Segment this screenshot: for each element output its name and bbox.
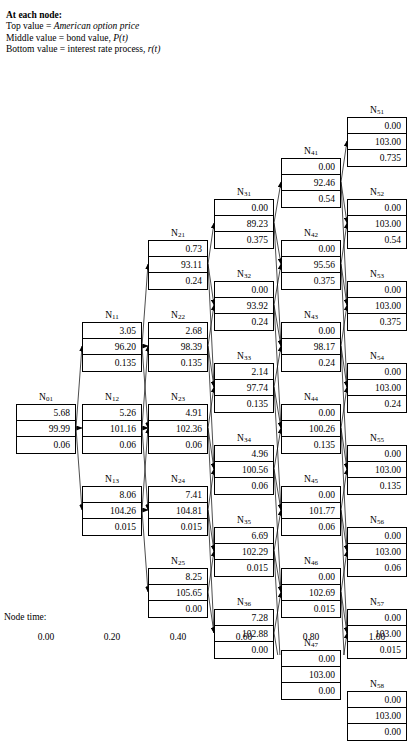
node-label-subscript: 46 xyxy=(311,559,318,567)
legend-title: At each node: xyxy=(6,10,160,21)
bond-value-cell: 103.00 xyxy=(348,134,406,150)
node-label: N24 xyxy=(148,473,208,486)
interest-rate-cell: 0.06 xyxy=(348,560,406,576)
tree-node-n43: N430.0098.170.24 xyxy=(281,309,341,372)
tree-node-n33: N332.1497.740.135 xyxy=(214,350,274,413)
node-label-subscript: 23 xyxy=(178,395,185,403)
node-box: 0.00103.000.735 xyxy=(347,117,407,167)
option-price-cell: 0.00 xyxy=(348,364,406,380)
tree-node-n56: N560.00103.000.06 xyxy=(347,514,407,577)
node-label: N55 xyxy=(347,432,407,445)
node-label-text: N xyxy=(370,679,377,689)
node-label: N43 xyxy=(281,309,341,322)
tree-node-n13: N138.06104.260.015 xyxy=(82,473,142,536)
interest-rate-cell: 0.015 xyxy=(83,519,141,535)
node-label-subscript: 22 xyxy=(178,313,185,321)
legend: At each node: Top value = American optio… xyxy=(6,10,160,56)
node-box: 8.06104.260.015 xyxy=(82,486,142,536)
option-price-cell: 4.96 xyxy=(215,446,273,462)
node-label-subscript: 36 xyxy=(244,600,251,608)
option-price-cell: 3.05 xyxy=(83,323,141,339)
node-label-text: N xyxy=(370,105,377,115)
node-box: 0.00103.000.00 xyxy=(281,650,341,700)
node-label-text: N xyxy=(237,351,244,361)
node-label: N53 xyxy=(347,268,407,281)
node-box: 5.26101.160.06 xyxy=(82,404,142,454)
node-label-subscript: 41 xyxy=(311,149,318,157)
bond-value-cell: 102.36 xyxy=(149,421,207,437)
node-box: 6.69102.290.015 xyxy=(214,527,274,577)
bond-value-cell: 96.20 xyxy=(83,339,141,355)
node-label-text: N xyxy=(237,597,244,607)
tree-node-n21: N210.7393.110.24 xyxy=(148,227,208,290)
interest-rate-cell: 0.00 xyxy=(282,683,340,699)
option-price-cell: 2.14 xyxy=(215,364,273,380)
option-price-cell: 0.00 xyxy=(348,118,406,134)
node-label-subscript: 43 xyxy=(311,313,318,321)
tree-node-n57: N570.00103.000.015 xyxy=(347,596,407,659)
bond-value-cell: 102.69 xyxy=(282,585,340,601)
interest-rate-cell: 0.735 xyxy=(348,150,406,166)
interest-rate-cell: 0.375 xyxy=(282,273,340,289)
node-label-text: N xyxy=(171,310,178,320)
node-label-subscript: 54 xyxy=(377,354,384,362)
node-label-subscript: 21 xyxy=(178,231,185,239)
axis-tick: 0.80 xyxy=(281,632,341,642)
tree-node-n52: N520.00103.000.54 xyxy=(347,186,407,249)
option-price-cell: 5.26 xyxy=(83,405,141,421)
axis-title: Node time: xyxy=(4,612,46,622)
node-label: N57 xyxy=(347,596,407,609)
bond-value-cell: 98.17 xyxy=(282,339,340,355)
bond-value-cell: 103.00 xyxy=(348,380,406,396)
node-label-subscript: 12 xyxy=(112,395,119,403)
bond-value-cell: 104.81 xyxy=(149,503,207,519)
legend-line-middle: Middle value = bond value, P(t) xyxy=(6,33,160,44)
node-box: 0.00101.770.06 xyxy=(281,486,341,536)
option-price-cell: 0.00 xyxy=(282,651,340,667)
node-label: N13 xyxy=(82,473,142,486)
bond-value-cell: 92.46 xyxy=(282,175,340,191)
node-label: N52 xyxy=(347,186,407,199)
option-price-cell: 0.00 xyxy=(348,200,406,216)
option-price-cell: 0.00 xyxy=(215,200,273,216)
node-box: 4.96100.560.06 xyxy=(214,445,274,495)
tree-node-n44: N440.00100.260.135 xyxy=(281,391,341,454)
node-box: 0.00103.000.00 xyxy=(347,691,407,741)
node-box: 0.0098.170.24 xyxy=(281,322,341,372)
node-box: 8.25105.650.00 xyxy=(148,568,208,618)
node-label-text: N xyxy=(370,597,377,607)
tree-node-n31: N310.0089.230.375 xyxy=(214,186,274,249)
node-label-subscript: 55 xyxy=(377,436,384,444)
node-box: 0.00103.000.375 xyxy=(347,281,407,331)
option-price-cell: 0.00 xyxy=(348,446,406,462)
node-label-subscript: 33 xyxy=(244,354,251,362)
tree-node-n22: N222.6898.390.135 xyxy=(148,309,208,372)
node-box: 2.1497.740.135 xyxy=(214,363,274,413)
option-price-cell: 2.68 xyxy=(149,323,207,339)
tree-node-n47: N470.00103.000.00 xyxy=(281,637,341,700)
option-price-cell: 0.00 xyxy=(282,569,340,585)
option-price-cell: 7.28 xyxy=(215,610,273,626)
tree-node-n11: N113.0596.200.135 xyxy=(82,309,142,372)
node-label-subscript: 01 xyxy=(46,395,53,403)
node-label-text: N xyxy=(39,392,46,402)
node-label: N32 xyxy=(214,268,274,281)
tree-node-n51: N510.00103.000.735 xyxy=(347,104,407,167)
node-label-text: N xyxy=(105,474,112,484)
node-label-text: N xyxy=(237,269,244,279)
bond-value-cell: 103.00 xyxy=(348,216,406,232)
bond-value-cell: 103.00 xyxy=(348,708,406,724)
tree-node-n25: N258.25105.650.00 xyxy=(148,555,208,618)
interest-rate-cell: 0.135 xyxy=(215,396,273,412)
node-label-text: N xyxy=(171,228,178,238)
node-box: 0.00103.000.24 xyxy=(347,363,407,413)
interest-rate-cell: 0.06 xyxy=(17,437,75,453)
interest-rate-cell: 0.06 xyxy=(215,478,273,494)
node-label: N45 xyxy=(281,473,341,486)
tree-node-n42: N420.0095.560.375 xyxy=(281,227,341,290)
node-label-text: N xyxy=(171,556,178,566)
node-label-subscript: 31 xyxy=(244,190,251,198)
option-price-cell: 4.91 xyxy=(149,405,207,421)
node-label: N11 xyxy=(82,309,142,322)
interest-rate-cell: 0.54 xyxy=(348,232,406,248)
